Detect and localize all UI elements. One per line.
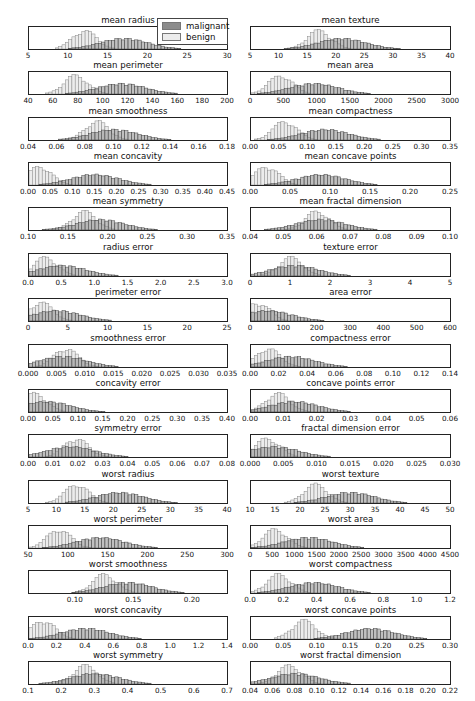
x-tick-label: 0.15 bbox=[95, 414, 111, 423]
plot-area bbox=[250, 434, 451, 458]
x-tick-label: 120 bbox=[121, 96, 135, 105]
x-tick-label: 4000 bbox=[419, 550, 437, 559]
x-tick-label: 200 bbox=[310, 323, 324, 332]
panel-title: mean concavity bbox=[28, 151, 228, 161]
x-tick-label: 500 bbox=[265, 550, 279, 559]
x-tick-label: 0.04 bbox=[20, 142, 36, 151]
x-tick-label: 0.005 bbox=[46, 369, 67, 378]
plot-area bbox=[250, 344, 451, 368]
plot-area bbox=[28, 162, 228, 186]
x-tick-label: 0.2 bbox=[51, 641, 62, 650]
histogram-panel: worst area050010001500200025003000350040… bbox=[250, 514, 451, 560]
plot-area bbox=[250, 525, 451, 549]
plot-area bbox=[28, 298, 228, 322]
x-tick-label: 20 bbox=[295, 505, 304, 514]
panel-title: symmetry error bbox=[28, 423, 228, 433]
histogram-panel: worst radius510152025303540 bbox=[28, 469, 228, 515]
plot-area bbox=[28, 207, 228, 231]
histogram-panel: area error0100200300400500600 bbox=[250, 287, 451, 333]
x-tick-label: 0.20 bbox=[108, 187, 124, 196]
x-tick-label: 0.06 bbox=[48, 142, 64, 151]
x-tick-label: 0.3 bbox=[89, 686, 100, 695]
x-tick-label: 3000 bbox=[441, 96, 459, 105]
x-tick-label: 25 bbox=[360, 51, 369, 60]
histogram-panel: texture error012345 bbox=[250, 242, 451, 288]
legend-label: benign bbox=[186, 32, 215, 42]
x-tick-label: 45 bbox=[420, 505, 429, 514]
panel-title: worst concave points bbox=[250, 605, 451, 615]
x-tick-label: 0.05 bbox=[42, 187, 58, 196]
plot-area bbox=[28, 71, 228, 95]
x-tick-label: 20 bbox=[109, 505, 118, 514]
x-tick-label: 0.030 bbox=[188, 369, 209, 378]
histogram-panel: compactness error0.000.020.040.060.080.1… bbox=[250, 333, 451, 379]
plot-area bbox=[250, 117, 451, 141]
x-tick-label: 0.0 bbox=[22, 641, 33, 650]
plot-area bbox=[28, 616, 228, 640]
x-tick-label: 0.20 bbox=[402, 187, 418, 196]
x-tick-label: 1 bbox=[288, 278, 293, 287]
x-tick-label: 150 bbox=[101, 550, 115, 559]
x-tick-label: 0.30 bbox=[442, 641, 458, 650]
x-tick-label: 0.04 bbox=[299, 369, 315, 378]
plot-area bbox=[250, 298, 451, 322]
x-tick-label: 0.10 bbox=[299, 142, 315, 151]
panel-title: mean concave points bbox=[250, 151, 451, 161]
x-tick-label: 0.4 bbox=[311, 595, 322, 604]
x-tick-label: 0.030 bbox=[440, 459, 461, 468]
histogram-panel: concavity error0.000.050.100.150.200.250… bbox=[28, 378, 228, 424]
panel-title: smoothness error bbox=[28, 333, 228, 343]
x-tick-label: 0.12 bbox=[413, 369, 429, 378]
x-tick-label: 2000 bbox=[374, 96, 392, 105]
histogram-panel: symmetry error0.000.010.020.030.040.050.… bbox=[28, 423, 228, 469]
x-tick-label: 0.00 bbox=[242, 142, 258, 151]
x-tick-label: 10 bbox=[103, 323, 112, 332]
x-tick-label: 0.06 bbox=[169, 459, 185, 468]
x-tick-label: 250 bbox=[180, 550, 194, 559]
x-tick-label: 5 bbox=[66, 323, 71, 332]
x-tick-label: 0.5 bbox=[55, 278, 66, 287]
x-tick-label: 0.7 bbox=[221, 686, 232, 695]
plot-area bbox=[28, 389, 228, 413]
x-tick-label: 10 bbox=[245, 505, 254, 514]
x-tick-label: 10 bbox=[274, 51, 283, 60]
x-tick-label: 0.05 bbox=[271, 142, 287, 151]
x-tick-label: 0.14 bbox=[442, 369, 458, 378]
x-tick-label: 0.0 bbox=[244, 595, 255, 604]
histogram-panel: worst fractal dimension0.040.060.080.100… bbox=[250, 650, 451, 696]
x-tick-label: 200 bbox=[220, 96, 234, 105]
x-tick-label: 5 bbox=[448, 278, 453, 287]
x-tick-label: 2000 bbox=[330, 550, 348, 559]
x-tick-label: 0 bbox=[248, 323, 253, 332]
x-tick-label: 0.02 bbox=[70, 459, 86, 468]
x-tick-label: 0.10 bbox=[309, 641, 325, 650]
x-tick-label: 0.35 bbox=[219, 232, 235, 241]
x-tick-label: 0.010 bbox=[75, 369, 96, 378]
panel-title: mean symmetry bbox=[28, 196, 228, 206]
x-tick-label: 0.04 bbox=[242, 232, 258, 241]
x-tick-label: 15 bbox=[80, 505, 89, 514]
x-tick-label: 0.06 bbox=[309, 232, 325, 241]
x-tick-label: 0.25 bbox=[409, 641, 425, 650]
x-tick-label: 0.15 bbox=[362, 187, 378, 196]
x-tick-label: 0.01 bbox=[45, 459, 61, 468]
x-axis-ticks: 0.040.060.080.100.120.140.160.180.200.22 bbox=[250, 686, 451, 696]
x-tick-label: 40 bbox=[395, 505, 404, 514]
x-tick-label: 500 bbox=[276, 96, 290, 105]
x-tick-label: 25 bbox=[222, 323, 231, 332]
x-tick-label: 0.2 bbox=[278, 595, 289, 604]
histogram-panel: concave points error0.000.010.020.030.04… bbox=[250, 378, 451, 424]
x-tick-label: 0.08 bbox=[375, 232, 391, 241]
x-tick-label: 0.00 bbox=[242, 369, 258, 378]
x-tick-label: 0.0 bbox=[22, 278, 33, 287]
x-tick-label: 1.5 bbox=[122, 278, 133, 287]
x-tick-label: 0.20 bbox=[100, 232, 116, 241]
x-tick-label: 0.10 bbox=[70, 414, 86, 423]
x-tick-label: 0.15 bbox=[60, 232, 76, 241]
x-tick-label: 30 bbox=[166, 505, 175, 514]
x-tick-label: 0.12 bbox=[134, 142, 150, 151]
x-tick-label: 40 bbox=[23, 96, 32, 105]
x-tick-label: 0.15 bbox=[342, 641, 358, 650]
plot-area bbox=[28, 480, 228, 504]
x-tick-label: 0.10 bbox=[64, 187, 80, 196]
